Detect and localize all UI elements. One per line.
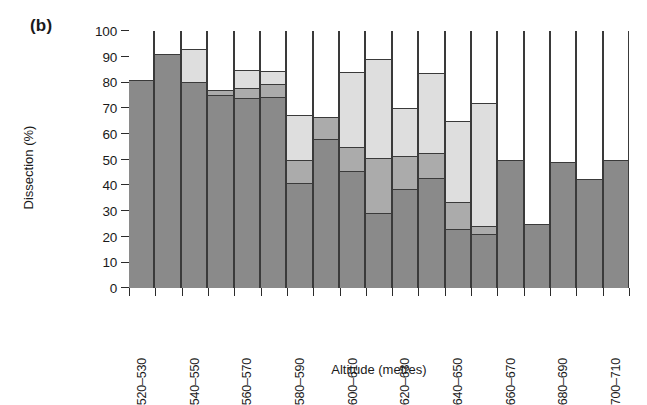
y-tick-label: 90 — [102, 49, 117, 64]
bar — [129, 31, 154, 288]
bar-segment-white — [551, 31, 575, 162]
bar-segment-light-grey — [261, 71, 285, 84]
bar-segment-medium-grey — [287, 160, 311, 183]
y-tick — [121, 210, 129, 211]
x-tick — [182, 288, 183, 296]
bar-segment-light-grey — [446, 121, 470, 202]
y-tick — [121, 30, 129, 31]
bar-segment-dark-grey — [235, 98, 259, 288]
bar-segment-white — [208, 31, 232, 90]
x-axis-tick-labels: 520–530540–550560–570580–590600–610620–6… — [129, 296, 629, 362]
bar-segment-medium-grey — [446, 202, 470, 229]
bar-segment-white — [525, 31, 549, 224]
x-tick — [261, 288, 262, 296]
bar-segment-dark-grey — [366, 213, 390, 288]
bar — [576, 31, 602, 288]
y-tick — [121, 184, 129, 185]
x-tick — [287, 288, 288, 296]
bar — [524, 31, 550, 288]
bar-segment-dark-grey — [287, 183, 311, 288]
bar-segment-white — [261, 31, 285, 71]
bar-segment-medium-grey — [472, 226, 496, 234]
bar — [181, 31, 207, 288]
bar-segment-white — [604, 31, 628, 160]
bar — [234, 31, 260, 288]
bar — [365, 31, 391, 288]
y-axis: Dissection (%) 0102030405060708090100 — [0, 0, 129, 388]
y-tick — [121, 236, 129, 237]
bar-segment-white — [287, 31, 311, 115]
x-tick — [524, 288, 525, 296]
bar-segment-dark-grey — [446, 229, 470, 288]
bar-segment-white — [340, 31, 364, 72]
bar-segment-dark-grey — [393, 189, 417, 288]
bar-segment-dark-grey — [261, 97, 285, 288]
bar — [497, 31, 523, 288]
x-tick — [366, 288, 367, 296]
bar-segment-white — [235, 31, 259, 70]
bar — [313, 31, 339, 288]
y-tick — [121, 133, 129, 134]
bar-segment-white — [393, 31, 417, 108]
x-axis-title: Altitude (metres) — [129, 362, 629, 377]
y-tick — [121, 107, 129, 108]
bar-segment-white — [314, 31, 338, 117]
bar — [550, 31, 576, 288]
bar — [286, 31, 312, 288]
bar-segment-dark-grey — [604, 160, 628, 289]
x-tick — [392, 288, 393, 296]
bar-segment-white — [366, 31, 390, 59]
bar-segment-light-grey — [419, 73, 443, 153]
bar — [154, 31, 180, 288]
bar-segment-white — [498, 31, 522, 160]
bar-segment-light-grey — [287, 115, 311, 160]
x-tick — [340, 288, 341, 296]
x-tick — [629, 288, 630, 296]
x-tick — [471, 288, 472, 296]
y-tick-label: 10 — [102, 255, 117, 270]
bar — [392, 31, 418, 288]
y-tick-label: 30 — [102, 203, 117, 218]
bar-segment-white — [446, 31, 470, 121]
bar-segment-white — [155, 31, 179, 54]
bar-segment-dark-grey — [551, 162, 575, 288]
bar-segment-dark-grey — [577, 179, 601, 288]
y-tick-label: 80 — [102, 75, 117, 90]
bar-segment-dark-grey — [314, 139, 338, 288]
x-tick — [129, 288, 130, 296]
bar-segment-white — [577, 31, 601, 179]
x-axis-ticks — [129, 288, 629, 296]
bar-segment-dark-grey — [419, 178, 443, 289]
y-tick-label: 50 — [102, 152, 117, 167]
bar — [207, 31, 233, 288]
bar-segment-medium-grey — [340, 147, 364, 171]
bar — [445, 31, 471, 288]
bar-segment-white — [129, 31, 153, 80]
bar-segment-dark-grey — [129, 80, 153, 288]
x-tick — [576, 288, 577, 296]
x-tick — [497, 288, 498, 296]
x-tick — [418, 288, 419, 296]
y-tick-label: 40 — [102, 178, 117, 193]
bar-segment-light-grey — [366, 59, 390, 158]
x-tick — [603, 288, 604, 296]
bar-segment-dark-grey — [182, 82, 206, 288]
x-tick — [445, 288, 446, 296]
bar — [603, 31, 629, 288]
bar-segment-light-grey — [472, 103, 496, 226]
y-tick — [121, 287, 129, 288]
y-tick — [121, 56, 129, 57]
bar-segment-light-grey — [393, 108, 417, 156]
stacked-bars — [129, 31, 629, 288]
bar — [418, 31, 444, 288]
bar-segment-medium-grey — [393, 156, 417, 189]
x-tick — [155, 288, 156, 296]
bar — [471, 31, 497, 288]
y-tick — [121, 262, 129, 263]
bar-segment-medium-grey — [261, 84, 285, 97]
y-axis-title: Dissection (%) — [21, 78, 36, 258]
x-tick — [313, 288, 314, 296]
bar-segment-dark-grey — [208, 95, 232, 288]
x-tick — [208, 288, 209, 296]
